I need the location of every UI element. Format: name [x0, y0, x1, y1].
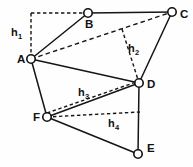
diagonal-a-c: [31, 12, 172, 59]
height-label-h4: h4: [108, 118, 119, 129]
height-h3-line: [47, 81, 139, 113]
height-label-h2-subscript: 2: [135, 48, 139, 57]
height-label-h2: h2: [128, 43, 139, 54]
vertex-a: [27, 55, 35, 63]
height-label-h4-subscript: 4: [115, 123, 119, 132]
vertex-label-b: B: [85, 19, 93, 31]
vertex-label-d: D: [147, 79, 155, 91]
edge-d-e: [138, 83, 139, 154]
height-label-h1: h1: [11, 27, 22, 38]
height-label-h1-base: h: [11, 26, 18, 38]
edge-a-d: [31, 59, 139, 83]
edge-e-f: [47, 117, 138, 154]
vertex-e: [134, 150, 142, 158]
diagram-canvas: [0, 0, 193, 167]
height-label-h4-base: h: [108, 117, 115, 129]
geometry-diagram: A B C D E F h1 h2 h3 h4: [0, 0, 193, 167]
height-label-h3: h3: [78, 87, 89, 98]
vertex-label-f: F: [33, 112, 40, 124]
height-label-h3-subscript: 3: [85, 92, 89, 101]
edge-f-a: [31, 59, 47, 117]
edge-f-d: [47, 83, 139, 117]
height-label-h2-base: h: [128, 42, 135, 54]
vertex-c: [168, 8, 176, 16]
height-label-h3-base: h: [78, 86, 85, 98]
vertex-f: [43, 113, 51, 121]
height-h4-line: [47, 112, 140, 117]
vertex-label-e: E: [147, 143, 155, 155]
vertex-label-c: C: [180, 9, 188, 21]
vertex-d: [135, 79, 143, 87]
edge-a-b: [31, 13, 88, 59]
height-label-h1-subscript: 1: [18, 32, 22, 41]
edge-b-c: [88, 12, 172, 13]
edge-c-d: [139, 12, 172, 83]
vertex-b: [84, 9, 92, 17]
vertex-label-a: A: [17, 54, 25, 66]
